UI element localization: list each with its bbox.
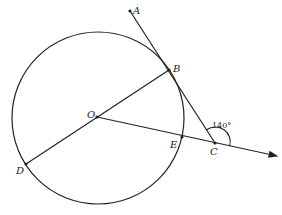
label-a: A — [132, 5, 140, 16]
label-d: D — [15, 165, 24, 176]
label-o: O — [87, 109, 95, 120]
line-ac — [130, 11, 215, 143]
point-b — [167, 68, 170, 71]
point-e — [180, 135, 183, 138]
point-c — [213, 141, 216, 144]
point-d — [24, 162, 27, 165]
point-o — [95, 115, 98, 118]
point-a — [128, 9, 131, 12]
label-c: C — [210, 146, 218, 157]
angle-label-140: 140° — [212, 121, 231, 130]
label-b: B — [172, 63, 180, 74]
geometry-diagram: A B O E C D 140° — [0, 0, 282, 215]
ray-oc — [97, 117, 277, 156]
label-e: E — [169, 139, 178, 150]
